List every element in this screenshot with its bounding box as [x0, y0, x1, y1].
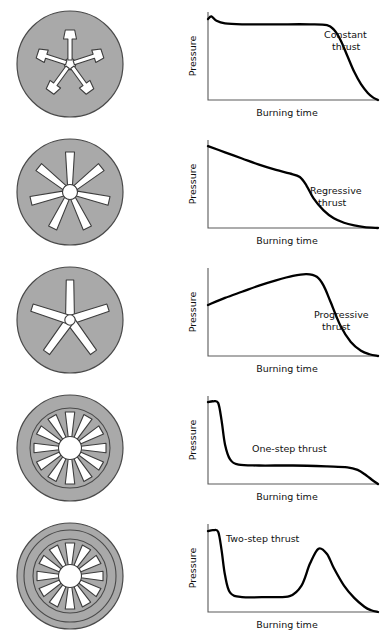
grain-center-port: [63, 185, 78, 200]
grain-cross-section-one-step: [8, 384, 133, 512]
progressive-thrust-label: Progressive: [314, 309, 369, 320]
seven-spoke-radial-slot-grain: [8, 128, 133, 256]
thrust-chart-one-step: PressureBurning timeOne-step thrust: [180, 384, 383, 512]
y-axis-label: Pressure: [187, 548, 198, 589]
x-axis-label: Burning time: [256, 107, 318, 118]
solid-rocket-grain-thrust-figure: PressureBurning timeConstantthrustPressu…: [0, 0, 383, 641]
twelve-spoke-wagon-wheel-grain: [8, 384, 133, 512]
thrust-curve-chart: PressureBurning timeRegressivethrust: [180, 128, 383, 256]
y-axis-label: Pressure: [187, 292, 198, 333]
thrust-chart-constant: PressureBurning timeConstantthrust: [180, 0, 383, 128]
constant-thrust-label: thrust: [332, 41, 361, 52]
chart-axes: [208, 140, 378, 228]
thrust-curve-chart: PressureBurning timeProgressivethrust: [180, 256, 383, 384]
thrust-chart-regressive: PressureBurning timeRegressivethrust: [180, 128, 383, 256]
grain-center-port: [65, 315, 75, 325]
x-axis-label: Burning time: [256, 363, 318, 374]
y-axis-label: Pressure: [187, 420, 198, 461]
x-axis-label: Burning time: [256, 619, 318, 630]
grain-thrust-row-progressive: PressureBurning timeProgressivethrust: [0, 256, 383, 384]
thrust-curve-chart: PressureBurning timeConstantthrust: [180, 0, 383, 128]
two-step-thrust-label: Two-step thrust: [225, 533, 300, 544]
chart-axes: [208, 396, 378, 484]
y-axis-label: Pressure: [187, 164, 198, 205]
thrust-curve-chart: PressureBurning timeOne-step thrust: [180, 384, 383, 512]
thrust-chart-progressive: PressureBurning timeProgressivethrust: [180, 256, 383, 384]
y-axis-label: Pressure: [187, 36, 198, 77]
grain-thrust-row-regressive: PressureBurning timeRegressivethrust: [0, 128, 383, 256]
progressive-thrust-label: thrust: [322, 321, 351, 332]
twelve-spoke-double-ring-wagon-wheel-grain: [8, 512, 133, 640]
grain-cross-section-progressive: [8, 256, 133, 384]
grain-center-port: [59, 437, 82, 460]
grain-center-port: [59, 565, 82, 588]
regressive-thrust-label: thrust: [318, 197, 347, 208]
grain-cross-section-constant: [8, 0, 133, 128]
grain-thrust-row-two-step: PressureBurning timeTwo-step thrust: [0, 512, 383, 640]
grain-cross-section-two-step: [8, 512, 133, 640]
five-point-dogbone-star-grain: [8, 0, 133, 128]
grain-port-slot: [66, 152, 75, 185]
grain-thrust-row-constant: PressureBurning timeConstantthrust: [0, 0, 383, 128]
one-step-thrust-label: One-step thrust: [252, 443, 327, 454]
constant-thrust-label: Constant: [324, 29, 367, 40]
x-axis-label: Burning time: [256, 235, 318, 246]
thrust-curve-chart: PressureBurning timeTwo-step thrust: [180, 512, 383, 640]
x-axis-label: Burning time: [256, 491, 318, 502]
thrust-chart-two-step: PressureBurning timeTwo-step thrust: [180, 512, 383, 640]
regressive-thrust-label: Regressive: [310, 185, 362, 196]
grain-thrust-row-one-step: PressureBurning timeOne-step thrust: [0, 384, 383, 512]
five-spoke-wide-star-grain: [8, 256, 133, 384]
grain-cross-section-regressive: [8, 128, 133, 256]
